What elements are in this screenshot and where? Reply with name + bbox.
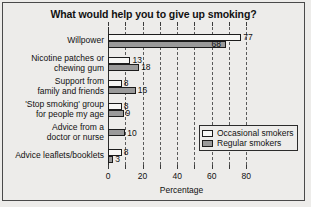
- legend-label: Occasional smokers: [217, 129, 294, 138]
- x-tick-label: 40: [172, 171, 181, 181]
- tick-mark-top: [160, 22, 161, 26]
- tick-mark-bottom: [194, 165, 195, 169]
- bar-value-label: 77: [243, 33, 252, 41]
- tick-mark-bottom: [160, 165, 161, 169]
- tick-mark-bottom: [212, 165, 213, 169]
- bar-regular-smokers: [108, 156, 113, 163]
- legend-item: Occasional smokers: [202, 128, 294, 138]
- bar-occasional-smokers: [108, 103, 122, 110]
- category-label: 'Stop smoking' group for people my age: [0, 100, 108, 119]
- bar-value-label: 18: [141, 63, 150, 71]
- chart-row: Support from family and friends816: [108, 73, 255, 96]
- tick-mark-top: [177, 22, 178, 26]
- bar-value-label: 10: [127, 129, 136, 137]
- tick-mark-bottom: [246, 165, 247, 169]
- tick-mark-top: [229, 22, 230, 26]
- tick-mark-top: [194, 22, 195, 26]
- bar-value-label: 3: [115, 155, 120, 163]
- bar-value-label: 16: [138, 86, 147, 94]
- legend-swatch-occasional: [202, 130, 213, 137]
- category-label: Advice from a doctor or nurse: [0, 123, 108, 142]
- chart-row: Nicotine patches or chewing gum1318: [108, 50, 255, 73]
- chart-frame: What would help you to give up smoking? …: [2, 2, 305, 201]
- tick-mark-top: [125, 22, 126, 26]
- chart-row: Willpower7768: [108, 27, 255, 50]
- x-tick-label: 20: [138, 171, 147, 181]
- tick-mark-bottom: [177, 165, 178, 169]
- x-axis-title: Percentage: [108, 185, 255, 195]
- legend-swatch-regular: [202, 140, 213, 147]
- tick-mark-bottom: [229, 165, 230, 169]
- category-label: Advice leaflets/booklets: [0, 151, 108, 161]
- category-label: Nicotine patches or chewing gum: [0, 54, 108, 73]
- x-tick-label: 60: [207, 171, 216, 181]
- category-label: Willpower: [0, 36, 108, 46]
- bar-regular-smokers: [108, 110, 124, 117]
- x-tick-label: 80: [242, 171, 251, 181]
- tick-mark-top: [143, 22, 144, 26]
- category-label: Support from family and friends: [0, 77, 108, 96]
- bar-regular-smokers: [108, 129, 125, 136]
- bar-occasional-smokers: [108, 80, 122, 87]
- bar-value-label: 9: [126, 109, 131, 117]
- chart-row: 'Stop smoking' group for people my age89: [108, 96, 255, 119]
- bar-occasional-smokers: [108, 57, 130, 64]
- bar-regular-smokers: [108, 87, 136, 94]
- bar-regular-smokers: [108, 41, 226, 48]
- chart-title: What would help you to give up smoking?: [3, 8, 304, 20]
- chart-legend: Occasional smokersRegular smokers: [199, 125, 298, 151]
- tick-mark-top: [108, 22, 109, 26]
- tick-mark-bottom: [108, 165, 109, 169]
- bar-value-label: 68: [212, 40, 221, 48]
- x-tick-label: 0: [106, 171, 111, 181]
- bar-value-label: 8: [124, 148, 129, 156]
- legend-item: Regular smokers: [202, 138, 294, 148]
- tick-mark-bottom: [125, 165, 126, 169]
- legend-label: Regular smokers: [217, 139, 281, 148]
- bar-regular-smokers: [108, 64, 139, 71]
- tick-mark-top: [212, 22, 213, 26]
- tick-mark-bottom: [143, 165, 144, 169]
- tick-mark-top: [246, 22, 247, 26]
- bar-occasional-smokers: [108, 34, 241, 41]
